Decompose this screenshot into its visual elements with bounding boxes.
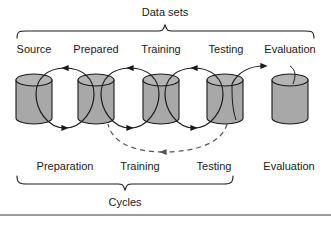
dataset-label-source: Source bbox=[17, 43, 52, 55]
cylinder-source bbox=[16, 74, 52, 124]
diagram-graphics bbox=[0, 0, 331, 227]
dataset-label-prepared: Prepared bbox=[73, 43, 118, 55]
cycle-label-testing: Testing bbox=[197, 160, 232, 172]
cycle-label-training: Training bbox=[120, 160, 159, 172]
dataset-label-testing: Testing bbox=[209, 43, 244, 55]
bottom-brace bbox=[17, 176, 233, 190]
cylinder-evaluation bbox=[272, 74, 308, 124]
cycle-label-evaluation: Evaluation bbox=[263, 160, 314, 172]
bottom-group-label: Cycles bbox=[108, 196, 141, 208]
dataset-label-evaluation: Evaluation bbox=[264, 43, 315, 55]
cycle-label-preparation: Preparation bbox=[37, 160, 94, 172]
cylinder-training bbox=[143, 74, 179, 124]
top-group-label: Data sets bbox=[142, 6, 188, 18]
diagram-canvas: Data sets Source Prepared Training Testi… bbox=[0, 0, 331, 227]
top-brace bbox=[17, 25, 314, 38]
dataset-label-training: Training bbox=[141, 43, 180, 55]
cylinder-testing bbox=[207, 74, 243, 124]
